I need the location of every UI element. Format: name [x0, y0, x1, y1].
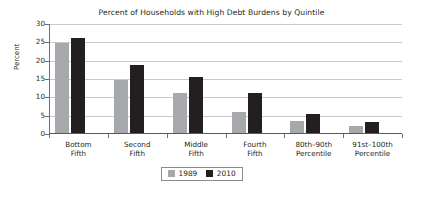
bar-group [284, 23, 343, 133]
bar-2010 [365, 122, 379, 133]
category-label-line: Fifth [226, 149, 285, 158]
legend-item-1989: 1989 [168, 170, 197, 177]
category-label: BottomFifth [49, 140, 108, 159]
y-tick-label: 25 [21, 38, 45, 45]
x-tick [108, 134, 109, 138]
x-tick [49, 134, 50, 138]
bar-1989 [173, 93, 187, 133]
y-tick-label: 20 [21, 57, 45, 64]
plot-area: Percent 051015202530 [49, 24, 402, 134]
category-label: FourthFifth [226, 140, 285, 159]
y-tick-label: 5 [21, 112, 45, 119]
y-axis-title: Percent [13, 44, 21, 70]
bar-group [343, 23, 402, 133]
category-label-line: Bottom [49, 140, 108, 149]
bar-1989 [114, 80, 128, 133]
bar-group [167, 23, 226, 133]
legend-label-1989: 1989 [179, 170, 198, 177]
category-label-line: 80th–90th [284, 140, 343, 149]
bar-group [49, 23, 108, 133]
category-label-line: Percentile [284, 149, 343, 158]
bar-2010 [71, 38, 85, 133]
x-tick [343, 134, 344, 138]
y-tick-label: 10 [21, 93, 45, 100]
legend-label-2010: 2010 [217, 170, 236, 177]
category-label: MiddleFifth [167, 140, 226, 159]
category-label-line: Middle [167, 140, 226, 149]
legend-swatch-1989-icon [168, 170, 175, 177]
bar-1989 [349, 126, 363, 133]
bar-2010 [248, 93, 262, 133]
x-tick [167, 134, 168, 138]
y-tick-label: 0 [21, 130, 45, 137]
bar-chart: Percent of Households with High Debt Bur… [0, 0, 423, 199]
bar-2010 [306, 114, 320, 133]
y-tick-label: 15 [21, 75, 45, 82]
bar-1989 [232, 112, 246, 133]
legend-item-2010: 2010 [206, 170, 235, 177]
chart-title: Percent of Households with High Debt Bur… [0, 8, 423, 17]
category-label: 91st–100thPercentile [343, 140, 402, 159]
category-label-line: Fourth [226, 140, 285, 149]
category-label-line: Percentile [343, 149, 402, 158]
bar-group [108, 23, 167, 133]
x-tick [402, 134, 403, 138]
category-label-line: Second [108, 140, 167, 149]
category-label-line: Fifth [49, 149, 108, 158]
chart-legend: 1989 2010 [161, 167, 243, 181]
bar-group [226, 23, 285, 133]
category-label: SecondFifth [108, 140, 167, 159]
bar-2010 [130, 65, 144, 133]
bar-2010 [189, 77, 203, 133]
category-label-line: Fifth [108, 149, 167, 158]
bar-1989 [290, 121, 304, 133]
category-label-line: Fifth [167, 149, 226, 158]
legend-swatch-2010-icon [206, 170, 213, 177]
bar-1989 [55, 43, 69, 133]
x-tick [226, 134, 227, 138]
category-label-line: 91st–100th [343, 140, 402, 149]
y-tick-label: 30 [21, 20, 45, 27]
x-tick [284, 134, 285, 138]
category-label: 80th–90thPercentile [284, 140, 343, 159]
